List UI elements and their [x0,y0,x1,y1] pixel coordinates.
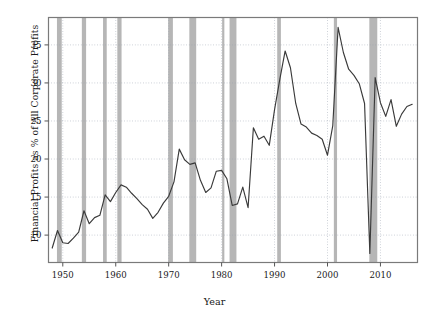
y-tick-label: 25 [31,116,42,126]
x-tick-label: 1990 [264,270,286,280]
y-tick-label: 15 [31,192,42,202]
y-tick-label: 20 [31,154,42,164]
x-tick-label: 2000 [317,270,339,280]
line-chart-plot: 1015202530351950196019701980199020002010 [0,0,429,317]
x-tick-label: 1970 [158,270,180,280]
x-tick-label: 2010 [370,270,392,280]
chart-figure: Financial Profits as % of All Corporate … [0,0,429,317]
x-tick-label: 1950 [52,270,74,280]
y-tick-label: 10 [31,230,42,240]
x-tick-label: 1980 [211,270,233,280]
recession-bands [57,18,377,263]
axis-ticks [45,45,381,267]
y-tick-label: 35 [31,40,42,50]
y-tick-label: 30 [31,78,42,88]
x-tick-label: 1960 [105,270,127,280]
